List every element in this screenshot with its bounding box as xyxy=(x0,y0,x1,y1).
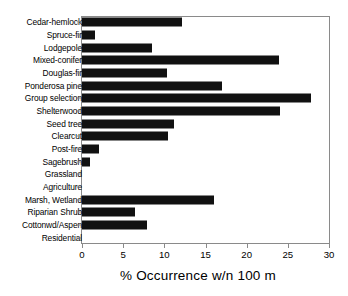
x-axis-tick-label: 5 xyxy=(120,250,125,260)
category-label: Mixed-conifer xyxy=(33,56,82,64)
y-axis-tick xyxy=(77,98,81,99)
bar-row: Agriculture xyxy=(0,181,348,194)
bar xyxy=(82,81,222,90)
bar xyxy=(82,30,95,39)
bar xyxy=(82,106,280,115)
bar-row: Seed tree xyxy=(0,117,348,130)
category-label: Residential xyxy=(42,233,82,241)
y-axis-tick xyxy=(77,237,81,238)
bar-row: Shelterwood xyxy=(0,105,348,118)
x-axis-tick xyxy=(164,244,165,248)
x-axis-tick xyxy=(206,244,207,248)
y-axis-tick xyxy=(77,161,81,162)
category-label: Riparian Shrub xyxy=(28,208,82,216)
bar xyxy=(82,157,90,166)
bar xyxy=(82,132,168,141)
bar xyxy=(82,94,311,103)
bar xyxy=(82,220,147,229)
y-axis-tick xyxy=(77,47,81,48)
x-axis-tick xyxy=(123,244,124,248)
bar-row: Residential xyxy=(0,231,348,244)
x-axis-title: % Occurrence w/n 100 m xyxy=(0,268,348,283)
bar-row: Douglas-fir xyxy=(0,67,348,80)
category-label: Cedar-hemlock xyxy=(27,18,83,26)
y-axis-tick xyxy=(77,174,81,175)
y-axis-tick xyxy=(77,123,81,124)
category-label: Ponderosa pine xyxy=(25,81,82,89)
y-axis-tick xyxy=(77,186,81,187)
x-axis-tick-label: 0 xyxy=(79,250,84,260)
bar-row: Ponderosa pine xyxy=(0,79,348,92)
bar-rows: Cedar-hemlockSpruce-firLodgepoleMixed-co… xyxy=(0,16,348,244)
bar-row: Spruce-fir xyxy=(0,29,348,42)
bar-row: Cottonwd/Aspen xyxy=(0,219,348,232)
bar xyxy=(82,195,214,204)
x-axis-tick-label: 20 xyxy=(241,250,252,260)
bar-row: Group selection xyxy=(0,92,348,105)
bar-row: Sagebrush xyxy=(0,155,348,168)
x-axis-tick xyxy=(288,244,289,248)
category-label: Cottonwd/Aspen xyxy=(22,221,82,229)
bar-row: Cedar-hemlock xyxy=(0,16,348,29)
bar-row: Marsh, Wetland xyxy=(0,193,348,206)
bar xyxy=(82,208,135,217)
x-axis-tick xyxy=(247,244,248,248)
bar xyxy=(82,43,152,52)
bar-row: Clearcut xyxy=(0,130,348,143)
y-axis-tick xyxy=(77,212,81,213)
bar-chart: Cedar-hemlockSpruce-firLodgepoleMixed-co… xyxy=(0,0,348,296)
y-axis-tick xyxy=(77,110,81,111)
bar-row: Post-fire xyxy=(0,143,348,156)
bar xyxy=(82,144,99,153)
x-axis-tick xyxy=(82,244,83,248)
x-axis: % Occurrence w/n 100 m 051015202530 xyxy=(0,244,348,296)
x-axis-tick xyxy=(329,244,330,248)
y-axis-tick xyxy=(77,136,81,137)
y-axis-tick xyxy=(77,34,81,35)
bar xyxy=(82,18,182,27)
y-axis-tick xyxy=(77,224,81,225)
x-axis-tick-label: 25 xyxy=(282,250,293,260)
x-axis-tick-label: 30 xyxy=(324,250,335,260)
bar-row: Grassland xyxy=(0,168,348,181)
category-label: Shelterwood xyxy=(37,107,82,115)
y-axis-tick xyxy=(77,60,81,61)
category-label: Group selection xyxy=(25,94,82,102)
bar-row: Lodgepole xyxy=(0,41,348,54)
y-axis-tick xyxy=(77,72,81,73)
category-label: Marsh, Wetland xyxy=(25,195,82,203)
x-axis-tick-label: 10 xyxy=(159,250,170,260)
y-axis-tick xyxy=(77,199,81,200)
y-axis-tick xyxy=(77,22,81,23)
y-axis-tick xyxy=(77,85,81,86)
x-axis-tick-label: 15 xyxy=(200,250,211,260)
bar xyxy=(82,119,174,128)
bar-row: Riparian Shrub xyxy=(0,206,348,219)
bar-row: Mixed-conifer xyxy=(0,54,348,67)
bar xyxy=(82,56,279,65)
y-axis-tick xyxy=(77,148,81,149)
bar xyxy=(82,68,167,77)
